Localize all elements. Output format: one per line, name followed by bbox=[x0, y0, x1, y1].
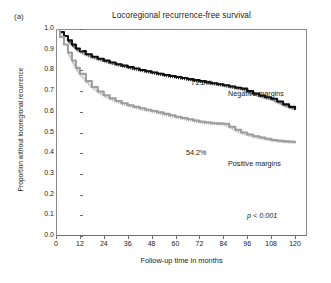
x-tick-label: 60 bbox=[164, 240, 188, 247]
x-tick-mark bbox=[199, 236, 200, 239]
positive-margins-percent-label: 54.2% bbox=[186, 148, 206, 157]
x-tick-label: 84 bbox=[211, 240, 235, 247]
y-axis-label: Proportion without locoregional recurren… bbox=[17, 30, 24, 230]
x-tick-label: 108 bbox=[259, 240, 283, 247]
x-tick-mark bbox=[152, 236, 153, 239]
x-tick-label: 0 bbox=[44, 240, 68, 247]
x-tick-mark bbox=[56, 236, 57, 239]
negative-margins-percent-label: 71.2% bbox=[191, 78, 211, 87]
x-tick-mark bbox=[128, 236, 129, 239]
x-tick-label: 24 bbox=[92, 240, 116, 247]
x-axis-ticks: 01224364860728496108120 bbox=[0, 0, 331, 283]
negative-margins-series-label: Negative margins bbox=[228, 89, 284, 98]
x-tick-mark bbox=[247, 236, 248, 239]
x-tick-label: 72 bbox=[187, 240, 211, 247]
x-tick-mark bbox=[223, 236, 224, 239]
x-tick-mark bbox=[80, 236, 81, 239]
x-axis-label: Follow-up time in months bbox=[56, 256, 307, 265]
x-tick-mark bbox=[295, 236, 296, 239]
x-tick-mark bbox=[176, 236, 177, 239]
x-tick-label: 96 bbox=[235, 240, 259, 247]
x-tick-mark bbox=[104, 236, 105, 239]
x-tick-mark bbox=[271, 236, 272, 239]
x-tick-label: 120 bbox=[283, 240, 307, 247]
x-tick-label: 36 bbox=[116, 240, 140, 247]
positive-margins-series-label: Positive margins bbox=[228, 159, 281, 168]
p-value-annotation: p < 0.001 bbox=[247, 211, 277, 220]
x-tick-label: 48 bbox=[140, 240, 164, 247]
x-tick-label: 12 bbox=[68, 240, 92, 247]
